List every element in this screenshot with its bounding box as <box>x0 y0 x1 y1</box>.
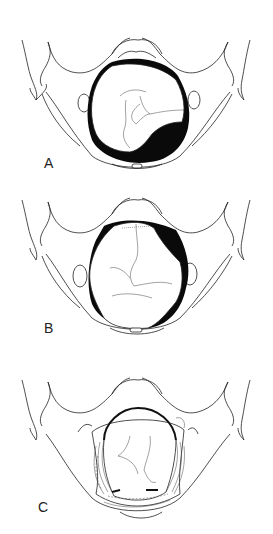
panel-label-c: C <box>38 499 48 515</box>
panel-label-b: B <box>44 320 53 336</box>
pelvis-illustration-b <box>0 178 273 356</box>
panel-c: C <box>0 356 273 534</box>
panel-a: A <box>0 0 273 178</box>
panel-b: B <box>0 178 273 356</box>
panel-label-a: A <box>44 155 53 171</box>
pelvis-illustration-a <box>0 0 273 178</box>
